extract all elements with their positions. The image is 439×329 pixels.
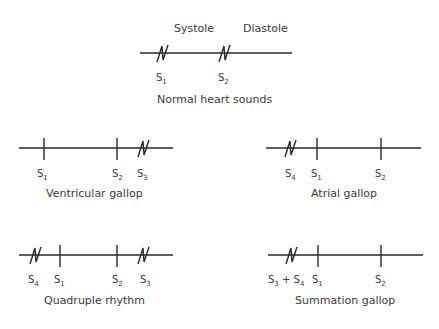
ventricular-gallop-panel: S1 S2 S3 Ventricular gallop [19, 138, 173, 200]
s2-label: S2 [375, 168, 386, 182]
heart-sounds-diagram: Systole Diastole S1 S2 Normal heart soun… [0, 0, 439, 329]
s1-label: S1 [312, 274, 323, 288]
s3-label: S3 [137, 168, 148, 182]
s2-label: S2 [218, 72, 229, 86]
panel-title: Ventricular gallop [46, 187, 143, 200]
systole-label: Systole [174, 22, 214, 35]
panel-title: Quadruple rhythm [44, 294, 145, 307]
panel-title: Atrial gallop [311, 187, 377, 200]
s1-label: S1 [311, 168, 322, 182]
diastole-label: Diastole [243, 22, 288, 35]
s1-label: S1 [156, 72, 167, 86]
s2-label: S2 [375, 274, 386, 288]
s3-plus-s4-label: S3 + S4 [268, 274, 305, 288]
normal-heart-sounds-panel: Systole Diastole S1 S2 Normal heart soun… [140, 22, 292, 106]
s1-label: S1 [54, 274, 65, 288]
s4-label: S4 [285, 168, 296, 182]
s1-label: S1 [37, 168, 48, 182]
s3-label: S3 [140, 274, 151, 288]
s2-label: S2 [112, 274, 123, 288]
atrial-gallop-panel: S4 S1 S2 Atrial gallop [266, 138, 421, 200]
quadruple-rhythm-panel: S4 S1 S2 S3 Quadruple rhythm [19, 245, 173, 307]
s4-label: S4 [28, 274, 39, 288]
summation-gallop-panel: S3 + S4 S1 S2 Summation gallop [268, 245, 423, 307]
s2-label: S2 [112, 168, 123, 182]
panel-title: Normal heart sounds [157, 93, 272, 106]
panel-title: Summation gallop [295, 294, 395, 307]
